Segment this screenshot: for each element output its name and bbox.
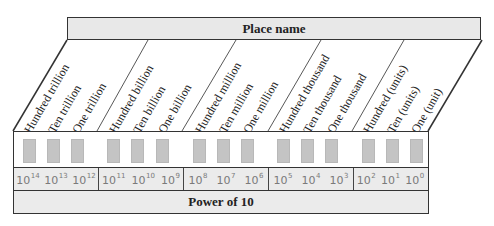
digit-box bbox=[362, 139, 375, 163]
digit-table: , , , , 1014 1013 1012 1011 bbox=[13, 131, 429, 214]
digit-box bbox=[23, 139, 36, 163]
power-value: 104 bbox=[302, 172, 321, 187]
power-value: 100 bbox=[405, 172, 424, 187]
place-value-diagram: Place name Hundred trillion Ten trillion… bbox=[0, 0, 494, 226]
digit-box bbox=[241, 139, 254, 163]
power-value: 1011 bbox=[102, 172, 125, 187]
digit-box bbox=[410, 139, 423, 163]
digit-box bbox=[277, 139, 290, 163]
power-value: 105 bbox=[274, 172, 293, 187]
power-value: 109 bbox=[161, 172, 180, 187]
digit-box bbox=[386, 139, 399, 163]
power-value: 106 bbox=[245, 172, 264, 187]
power-value: 1010 bbox=[132, 172, 155, 187]
digit-box bbox=[301, 139, 314, 163]
digit-box bbox=[131, 139, 144, 163]
power-value: 1014 bbox=[16, 172, 39, 187]
power-value: 107 bbox=[217, 172, 236, 187]
power-value: 103 bbox=[330, 172, 349, 187]
digit-box bbox=[47, 139, 60, 163]
digit-box bbox=[217, 139, 230, 163]
digit-box bbox=[107, 139, 120, 163]
digit-box bbox=[156, 139, 169, 163]
power-value: 101 bbox=[381, 172, 400, 187]
power-of-ten-footer: Power of 10 bbox=[14, 191, 428, 213]
power-group-billions: 1011 1010 109 bbox=[98, 168, 183, 190]
power-group-trillions: 1014 1013 1012 bbox=[14, 168, 98, 190]
power-value: 102 bbox=[357, 172, 376, 187]
power-value: 1012 bbox=[72, 172, 95, 187]
digit-box bbox=[193, 139, 206, 163]
power-of-ten-title: Power of 10 bbox=[188, 194, 253, 210]
slant-right-edge bbox=[428, 40, 482, 131]
power-group-millions: 108 107 106 bbox=[183, 168, 268, 190]
power-value: 1013 bbox=[44, 172, 67, 187]
power-value: 108 bbox=[189, 172, 208, 187]
power-group-units: 102 101 100 bbox=[353, 168, 427, 190]
digit-row: , , , , bbox=[14, 132, 428, 167]
power-group-thousands: 105 104 103 bbox=[268, 168, 353, 190]
digit-box bbox=[325, 139, 338, 163]
power-row: 1014 1013 1012 1011 1010 109 108 107 106… bbox=[14, 167, 428, 191]
digit-box bbox=[71, 139, 84, 163]
